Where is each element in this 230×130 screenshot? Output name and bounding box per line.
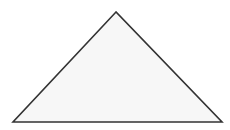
triangle-figure — [0, 0, 230, 130]
triangle-shape — [13, 12, 222, 122]
diagram-canvas — [0, 0, 230, 130]
